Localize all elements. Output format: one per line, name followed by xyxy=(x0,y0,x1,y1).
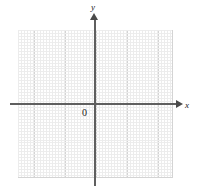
y-axis-label: y xyxy=(91,3,95,12)
y-axis-arrow-icon xyxy=(90,13,98,20)
y-axis-line xyxy=(94,19,96,186)
x-axis-arrow-icon xyxy=(176,100,183,108)
origin-label: 0 xyxy=(82,108,87,118)
x-axis-label: x xyxy=(185,101,189,110)
coordinate-grid-figure: x y 0 xyxy=(0,0,200,191)
